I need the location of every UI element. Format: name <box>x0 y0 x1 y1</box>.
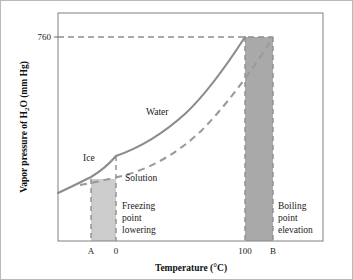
freezing-point-lowering-line-3: lowering <box>122 225 156 235</box>
ice-curve-label: Ice <box>83 153 95 163</box>
boiling-point-elevation-band <box>245 37 273 241</box>
x-tick-label-A: A <box>88 246 95 256</box>
x-axis-title: Temperature (°C) <box>155 263 227 274</box>
water-curve-label: Water <box>146 107 169 117</box>
boiling-point-elevation-line-3: elevation <box>278 225 313 235</box>
freezing-point-lowering-line-1: Freezing <box>122 201 155 211</box>
x-tick-label-B: B <box>270 246 276 256</box>
freezing-point-lowering-line-2: point <box>122 213 142 223</box>
solution-curve-label: Solution <box>125 173 157 183</box>
x-tick-label-100: 100 <box>238 246 252 256</box>
y-axis-title-post: O (mm Hg) <box>19 61 30 107</box>
boiling-point-elevation-line-1: Boiling <box>278 201 307 211</box>
y-axis-title-pre: Vapor pressure of H <box>19 110 29 192</box>
freezing-point-lowering-band <box>91 179 116 241</box>
boiling-point-elevation-line-2: point <box>278 213 298 223</box>
vapor-pressure-chart: 760 A 0 100 B Temperature (°C) Vapor pre… <box>1 1 353 280</box>
y-axis-title: Vapor pressure of H2O (mm Hg) <box>19 61 31 193</box>
x-tick-label-0: 0 <box>114 246 119 256</box>
y-tick-label-760: 760 <box>38 32 52 42</box>
figure-container: 760 A 0 100 B Temperature (°C) Vapor pre… <box>0 0 353 280</box>
